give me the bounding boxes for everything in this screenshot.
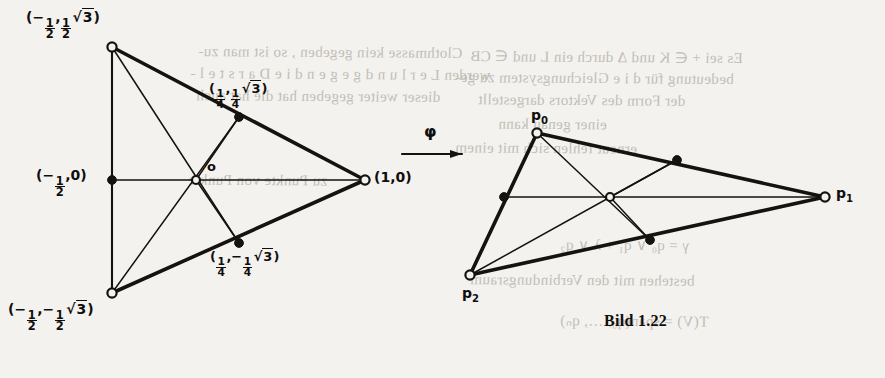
connector-upper-mid-centroid — [196, 117, 239, 180]
p0-subscript: 0 — [541, 115, 548, 126]
rparen: ) — [261, 81, 267, 96]
label-midpoint-upper-right: (14,143) — [209, 82, 267, 110]
label-vertex-p1: p1 — [836, 186, 853, 204]
label-vertex-right: (1,0) — [374, 170, 412, 184]
sqrt-icon: 3 — [241, 81, 262, 96]
minus-sign: − — [14, 301, 26, 317]
image-centroid-marker — [606, 193, 614, 201]
minus-sign: − — [32, 9, 44, 25]
image-vertex-p1-marker — [820, 192, 829, 201]
label-origin: o — [207, 160, 216, 173]
centroid-marker — [192, 176, 200, 184]
image-midpoint-upper-marker — [673, 156, 682, 165]
comma: , — [55, 9, 60, 25]
sqrt-icon: 3 — [65, 301, 87, 317]
connector-lower-mid-centroid — [196, 180, 239, 243]
p1-base: p — [836, 185, 846, 201]
comma: , — [225, 81, 230, 96]
label-vertex-p2: p2 — [462, 286, 479, 304]
midpoint-left-marker — [108, 176, 117, 185]
p2-subscript: 2 — [472, 293, 479, 304]
fraction-one-quarter-2: 14 — [243, 257, 252, 278]
sqrt-icon: 3 — [253, 249, 274, 264]
lparen: ( — [209, 81, 215, 96]
label-phi-map: φ — [424, 124, 437, 140]
fraction-one-half: 12 — [55, 176, 65, 198]
phi-arrow-head — [450, 150, 462, 158]
fraction-one-quarter: 14 — [215, 89, 224, 110]
figure-page: Clothmasse kein gegeben , so ist man zu-… — [0, 0, 885, 378]
midpoint-upper-right-marker — [235, 113, 244, 122]
rparen: ) — [273, 249, 279, 264]
image-connector-uppermid-centroid — [610, 160, 677, 197]
figure-caption: Bild 1.22 — [604, 312, 667, 330]
lparen: ( — [210, 249, 216, 264]
fraction-one-quarter: 14 — [216, 257, 225, 278]
image-cevian-p0-lowermid — [537, 133, 650, 240]
p0-base: p — [531, 107, 541, 123]
right-triangle-group — [465, 128, 829, 279]
vertex-top-marker — [107, 42, 116, 51]
minus-sign: − — [231, 249, 242, 264]
p2-base: p — [462, 285, 472, 301]
fraction-one-half: 12 — [45, 18, 55, 40]
label-midpoint-left: (−12,0) — [36, 168, 87, 198]
label-vertex-bottom: (−12,−123) — [8, 302, 94, 332]
figure-drawing — [0, 0, 885, 378]
fraction-one-half: 12 — [27, 310, 37, 332]
midpoint-lower-right-marker — [235, 239, 244, 248]
rparen: ) — [87, 301, 93, 317]
image-vertex-p0-marker — [532, 128, 541, 137]
label-midpoint-lower-right: (14,−143) — [210, 250, 279, 278]
rparen: ) — [94, 9, 100, 25]
fraction-one-half-2: 12 — [55, 310, 65, 332]
phi-arrow-group — [402, 150, 462, 158]
image-midpoint-lower-marker — [646, 236, 655, 245]
image-side-p0-p2 — [470, 133, 537, 275]
fraction-one-quarter-2: 14 — [231, 89, 240, 110]
minus-sign-2: − — [42, 301, 54, 317]
image-side-p0-p1 — [537, 133, 825, 197]
image-midpoint-left-marker — [500, 193, 509, 202]
vertex-right-marker — [360, 175, 369, 184]
fraction-one-half-2: 12 — [61, 18, 71, 40]
vertex-bottom-marker — [107, 288, 116, 297]
label-vertex-top: (−12,123) — [26, 10, 100, 40]
minus-sign: − — [42, 167, 54, 183]
image-vertex-p2-marker — [465, 270, 474, 279]
image-connector-lowermid-centroid — [610, 197, 650, 240]
label-vertex-p0: p0 — [531, 108, 548, 126]
p1-subscript: 1 — [846, 193, 853, 204]
sqrt-icon: 3 — [71, 9, 93, 25]
zero-and-paren: ,0) — [65, 167, 86, 183]
